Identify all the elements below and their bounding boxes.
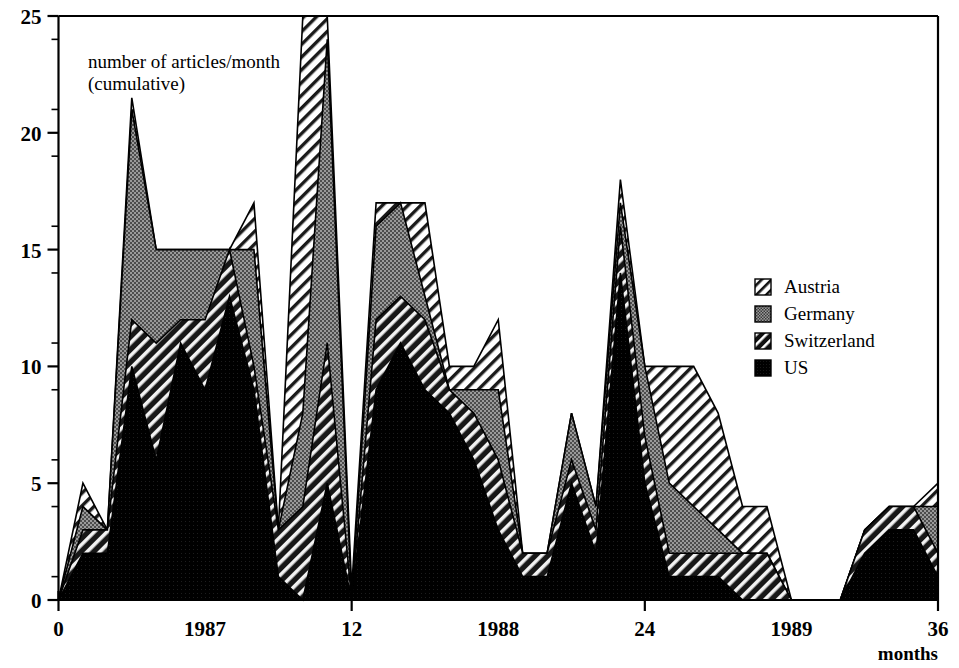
y-tick-label: 10 xyxy=(21,355,42,379)
x-axis-caption: months xyxy=(878,643,938,664)
x-year-label: 1988 xyxy=(477,617,519,641)
y-tick-label: 15 xyxy=(21,239,42,263)
annotation-line-1: number of articles/month xyxy=(88,51,281,72)
legend-swatch-austria xyxy=(755,279,771,295)
y-tick-label: 20 xyxy=(21,122,42,146)
legend-label-us: US xyxy=(784,357,808,378)
legend-label-switzerland: Switzerland xyxy=(784,330,875,351)
x-tick-label: 12 xyxy=(341,617,362,641)
stacked-area-chart: 0510152025 0122436 198719881989 number o… xyxy=(0,0,959,668)
y-tick-label: 5 xyxy=(31,472,42,496)
legend-label-austria: Austria xyxy=(784,276,841,297)
x-year-label: 1987 xyxy=(184,617,226,641)
x-tick-label: 36 xyxy=(928,617,949,641)
annotation-line-2: (cumulative) xyxy=(88,73,185,95)
chart-figure: 0510152025 0122436 198719881989 number o… xyxy=(0,0,959,668)
x-tick-label: 24 xyxy=(634,617,656,641)
legend-swatch-switzerland xyxy=(755,333,771,349)
chart-legend: AustriaGermanySwitzerlandUS xyxy=(755,276,875,378)
y-tick-label: 25 xyxy=(21,5,42,29)
x-axis-year-labels: 198719881989 xyxy=(184,617,812,641)
x-tick-label: 0 xyxy=(53,617,64,641)
y-axis-tick-labels: 0510152025 xyxy=(21,5,42,613)
x-year-label: 1989 xyxy=(770,617,812,641)
chart-annotation: number of articles/month (cumulative) xyxy=(88,51,281,95)
legend-swatch-us xyxy=(755,360,771,376)
y-tick-label: 0 xyxy=(31,589,42,613)
legend-swatch-germany xyxy=(755,306,771,322)
legend-label-germany: Germany xyxy=(784,303,855,324)
y-axis-ticks xyxy=(48,16,59,600)
x-axis-label: months xyxy=(878,643,938,664)
